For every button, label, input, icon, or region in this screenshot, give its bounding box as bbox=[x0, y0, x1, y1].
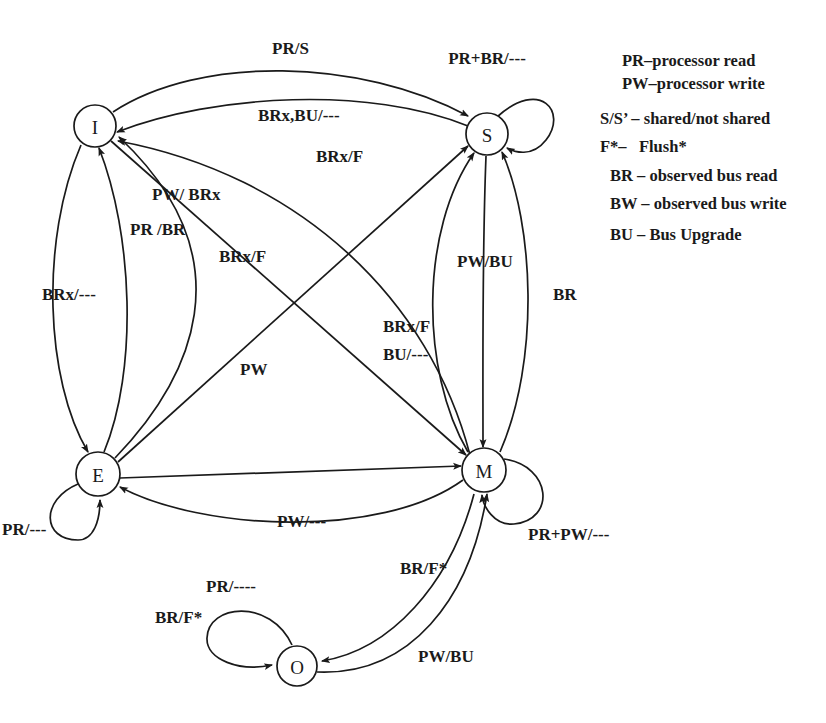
edge-label-i-to-m-pwbrx: PW/ BRx bbox=[152, 185, 221, 204]
edge-e-to-m-pw bbox=[120, 466, 461, 478]
edge-label-e-to-s-brxf: BRx/F bbox=[383, 317, 430, 336]
edge-label-s-to-m-pwbu: PW/BU bbox=[457, 252, 513, 271]
state-diagram-canvas: I S E M O PR/S BRx,BU/--- BRx/F PW bbox=[0, 0, 826, 723]
nodes-layer: I S E M O bbox=[74, 105, 508, 686]
edge-label-s-to-i-brxbu: BRx,BU/--- bbox=[258, 106, 340, 125]
edge-s-to-m-pwbu bbox=[483, 156, 486, 447]
self-loop-label-e: PR/--- bbox=[2, 520, 47, 539]
state-diagram-figure: I S E M O PR/S BRx,BU/--- BRx/F PW bbox=[0, 0, 826, 723]
legend-item-pw: PW–processor write bbox=[622, 74, 765, 93]
self-loop-label-o2: BR/F* bbox=[155, 608, 202, 627]
edges-layer bbox=[53, 71, 528, 672]
self-loop-label-s: PR+BR/--- bbox=[448, 49, 526, 68]
self-loops-layer bbox=[50, 99, 553, 667]
legend-item-ss: S/S’ – shared/not shared bbox=[600, 109, 770, 128]
edge-label-m-to-i-brxf: BRx/F bbox=[316, 147, 363, 166]
edge-m-to-s-br bbox=[500, 152, 528, 452]
edge-label-e-to-i-brxf: BRx/F bbox=[219, 247, 266, 266]
state-label-i: I bbox=[92, 117, 98, 138]
legend-item-pr: PR–processor read bbox=[622, 51, 755, 70]
state-node-i[interactable]: I bbox=[74, 105, 116, 147]
legend-item-bu: BU – Bus Upgrade bbox=[610, 225, 742, 244]
state-node-m[interactable]: M bbox=[462, 448, 506, 492]
edge-label-e-to-i-prbr: PR /BR bbox=[130, 220, 186, 239]
edge-o-to-m-pwbu bbox=[317, 494, 487, 672]
edge-m-to-s-bu bbox=[433, 153, 474, 452]
self-loop-label-m: PR+PW/--- bbox=[528, 525, 610, 544]
edge-label-m-to-s-bu: BU/--- bbox=[383, 345, 429, 364]
edge-label-m-to-s-br: BR bbox=[553, 285, 577, 304]
edge-label-m-to-e-pw: PW/--- bbox=[277, 512, 326, 531]
legend-item-bw: BW – observed bus write bbox=[610, 194, 787, 213]
state-node-e[interactable]: E bbox=[76, 452, 120, 496]
legend-item-f: F*– Flush* bbox=[600, 137, 687, 156]
state-node-o[interactable]: O bbox=[277, 646, 317, 686]
edge-label-i-to-s-prs: PR/S bbox=[272, 39, 309, 58]
state-label-m: M bbox=[476, 461, 493, 482]
edge-label-o-to-m-pwbu: PW/BU bbox=[418, 647, 474, 666]
legend-item-br: BR – observed bus read bbox=[610, 166, 777, 185]
edge-e-to-i-prbr bbox=[99, 148, 127, 452]
legend: PR–processor read PW–processor write S/S… bbox=[600, 51, 787, 244]
state-label-o: O bbox=[290, 657, 304, 678]
edge-label-m-to-o-brf: BR/F* bbox=[400, 559, 447, 578]
edge-label-i-to-e-brx: BRx/--- bbox=[42, 285, 96, 304]
edge-label-e-to-m-pw: PW bbox=[240, 360, 267, 379]
state-label-e: E bbox=[92, 465, 104, 486]
state-node-s[interactable]: S bbox=[466, 113, 508, 155]
self-loop-label-o: PR/---- bbox=[206, 577, 256, 596]
state-label-s: S bbox=[482, 125, 493, 146]
